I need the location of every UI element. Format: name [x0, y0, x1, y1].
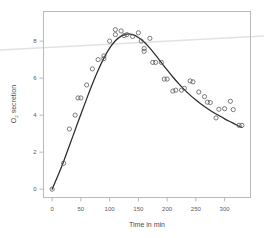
x-axis-tick-label: 50	[78, 206, 85, 212]
chart-figure: 050100150200250300 02468 Time in min O2 …	[0, 0, 264, 238]
x-axis-tick-label: 300	[220, 206, 231, 212]
x-axis-tick-label: 250	[191, 206, 202, 212]
x-axis-title: Time in min	[129, 221, 165, 228]
o2-secretion-scatter-plot: 050100150200250300 02468 Time in min O2 …	[0, 0, 264, 238]
x-axis-tick-label: 150	[133, 206, 144, 212]
x-axis-tick-label: 100	[105, 206, 116, 212]
x-axis-tick-label: 200	[162, 206, 173, 212]
y-axis-title-rest: secretion	[10, 85, 17, 115]
